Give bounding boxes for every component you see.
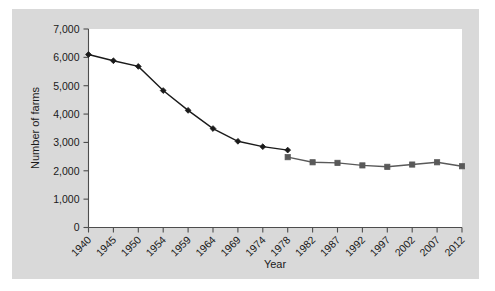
x-tick-label: 1974 bbox=[243, 233, 268, 258]
x-tick-label: 2012 bbox=[442, 233, 467, 258]
data-point-marker bbox=[310, 160, 315, 165]
y-tick-label: 6,000 bbox=[53, 51, 79, 63]
y-tick-label: 2,000 bbox=[53, 165, 79, 177]
x-tick-label: 1987 bbox=[317, 233, 342, 258]
data-point-marker bbox=[410, 162, 415, 167]
x-axis-ticks: 1940194519501954195919641969197419781982… bbox=[68, 228, 467, 259]
x-tick-label: 1959 bbox=[168, 233, 193, 258]
data-point-marker bbox=[335, 160, 340, 165]
data-point-marker bbox=[360, 163, 365, 168]
x-tick-label: 1940 bbox=[68, 233, 93, 258]
y-axis-ticks: 01,0002,0003,0004,0005,0006,0007,000 bbox=[53, 23, 88, 234]
x-axis-title: Year bbox=[264, 258, 287, 270]
line-chart: 01,0002,0003,0004,0005,0006,0007,000 194… bbox=[12, 9, 479, 279]
x-tick-label: 1969 bbox=[218, 233, 243, 258]
y-tick-label: 1,000 bbox=[53, 193, 79, 205]
x-tick-label: 1982 bbox=[293, 233, 318, 258]
x-tick-label: 1992 bbox=[342, 233, 367, 258]
x-tick-label: 2007 bbox=[417, 233, 442, 258]
y-axis-title: Number of farms bbox=[29, 87, 41, 169]
data-point-marker bbox=[435, 160, 440, 165]
x-tick-label: 1997 bbox=[367, 233, 392, 258]
x-tick-label: 1978 bbox=[268, 233, 293, 258]
y-tick-label: 7,000 bbox=[53, 23, 79, 35]
x-tick-label: 1954 bbox=[143, 233, 168, 258]
x-tick-label: 1950 bbox=[118, 233, 143, 258]
y-tick-label: 4,000 bbox=[53, 108, 79, 120]
y-tick-label: 5,000 bbox=[53, 80, 79, 92]
x-tick-label: 1964 bbox=[193, 233, 218, 258]
y-tick-label: 3,000 bbox=[53, 136, 79, 148]
figure-panel: 01,0002,0003,0004,0005,0006,0007,000 194… bbox=[12, 9, 479, 279]
data-point-marker bbox=[385, 164, 390, 169]
data-point-marker bbox=[459, 164, 464, 169]
plot-area-background bbox=[88, 29, 462, 227]
data-point-marker bbox=[285, 155, 290, 160]
x-tick-label: 2002 bbox=[392, 233, 417, 258]
y-tick-label: 0 bbox=[74, 221, 80, 233]
x-tick-label: 1945 bbox=[93, 233, 118, 258]
